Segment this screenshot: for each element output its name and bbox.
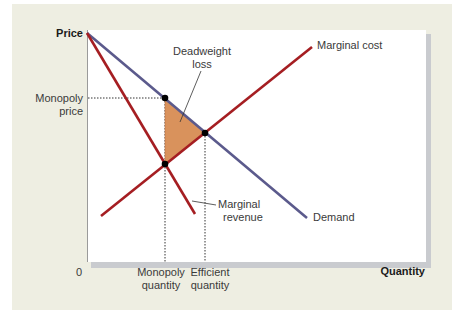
origin-label: 0 [76,266,82,279]
efficient-point [202,130,209,137]
deadweight-loss-label-line2: loss [170,58,234,71]
deadweight-leader [180,71,201,122]
deadweight-loss-area [165,98,205,164]
monopoly-price-label-line2: price [20,105,83,118]
efficient-quantity-label-line2: quantity [185,279,235,292]
marginal-cost-label: Marginal cost [317,39,382,52]
y-axis-label: Price [40,27,83,40]
monopoly-quantity-label-line2: quantity [131,279,191,292]
mr-mc-point [162,161,169,168]
x-axis-label: Quantity [350,265,425,278]
deadweight-loss-label-line1: Deadweight [170,45,234,58]
marginal-revenue-leader [192,201,216,205]
marginal-revenue-label-line2: revenue [223,211,263,224]
marginal-revenue-label-line1: Marginal [218,198,260,211]
monopoly-price-label-line1: Monopoly [20,92,83,105]
monopoly-price-point [162,95,169,102]
efficient-quantity-label-line1: Efficient [185,266,235,279]
demand-label: Demand [313,211,355,224]
monopoly-quantity-label-line1: Monopoly [131,266,191,279]
